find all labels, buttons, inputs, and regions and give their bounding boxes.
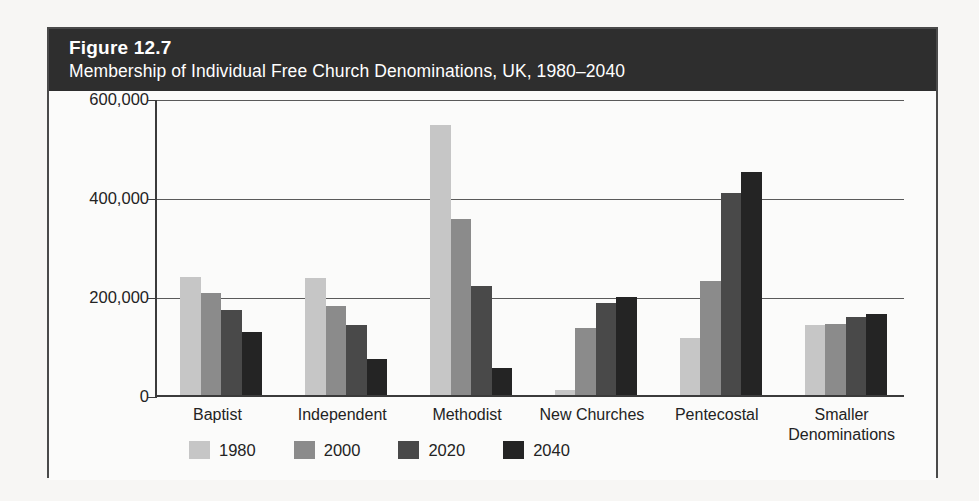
bar — [492, 368, 513, 395]
gridline — [157, 199, 904, 200]
bar — [680, 338, 701, 395]
chart-area: 0200,000400,000600,000 BaptistIndependen… — [49, 91, 936, 480]
legend-item[interactable]: 2020 — [398, 441, 465, 460]
legend-item[interactable]: 2040 — [503, 441, 570, 460]
category-label: Methodist — [405, 405, 530, 425]
legend-item[interactable]: 1980 — [189, 441, 256, 460]
gridline — [157, 100, 904, 101]
legend-label: 2000 — [324, 441, 361, 460]
legend-label: 2020 — [428, 441, 465, 460]
y-axis-tick-label: 600,000 — [55, 90, 149, 109]
legend-label: 1980 — [219, 441, 256, 460]
bar — [616, 297, 637, 395]
category-label: Independent — [280, 405, 405, 425]
bar — [471, 286, 492, 395]
category-label-line: Baptist — [155, 405, 280, 425]
bar — [305, 278, 326, 395]
category-label: Baptist — [155, 405, 280, 425]
bar — [201, 293, 222, 395]
bar — [846, 317, 867, 395]
category-label: Pentecostal — [654, 405, 779, 425]
category-label-line: Pentecostal — [654, 405, 779, 425]
category-label: New Churches — [530, 405, 655, 425]
legend-swatch-icon — [503, 441, 524, 459]
bar — [596, 303, 617, 395]
legend-swatch-icon — [294, 441, 315, 459]
figure-number: Figure 12.7 — [69, 36, 936, 59]
y-axis-tick-label: 200,000 — [55, 288, 149, 307]
bar — [741, 172, 762, 395]
y-axis-tick — [148, 100, 157, 101]
y-axis-labels: 0200,000400,000600,000 — [49, 100, 149, 397]
chart-legend: 1980200020202040 — [189, 437, 608, 463]
bar — [451, 219, 472, 395]
legend-swatch-icon — [398, 441, 419, 459]
category-label-line: New Churches — [530, 405, 655, 425]
bar — [221, 310, 242, 395]
legend-label: 2040 — [533, 441, 570, 460]
y-axis-tick — [148, 397, 157, 398]
bar — [555, 390, 576, 395]
y-axis-tick — [148, 199, 157, 200]
category-label-line: Smaller — [779, 405, 904, 425]
y-axis-tick — [148, 298, 157, 299]
plot-area — [155, 100, 904, 397]
bar — [367, 359, 388, 395]
bar — [825, 324, 846, 395]
category-label: SmallerDenominations — [779, 405, 904, 445]
bar — [575, 328, 596, 395]
figure-container: Figure 12.7 Membership of Individual Fre… — [47, 27, 938, 478]
bar — [242, 332, 263, 395]
bar — [326, 306, 347, 395]
y-axis-tick-label: 400,000 — [55, 189, 149, 208]
bar — [430, 125, 451, 395]
legend-item[interactable]: 2000 — [294, 441, 361, 460]
y-axis-tick-label: 0 — [55, 387, 149, 406]
figure-caption: Membership of Individual Free Church Den… — [69, 59, 936, 83]
bar — [180, 277, 201, 395]
category-label-line: Independent — [280, 405, 405, 425]
category-label-line: Methodist — [405, 405, 530, 425]
bar — [721, 193, 742, 395]
legend-swatch-icon — [189, 441, 210, 459]
scanned-page: Figure 12.7 Membership of Individual Fre… — [0, 0, 979, 501]
bar — [346, 325, 367, 395]
figure-title-band: Figure 12.7 Membership of Individual Fre… — [49, 29, 936, 91]
bar — [866, 314, 887, 395]
category-label-line: Denominations — [779, 425, 904, 445]
bar — [700, 281, 721, 395]
bar — [805, 325, 826, 395]
gridline — [157, 298, 904, 299]
